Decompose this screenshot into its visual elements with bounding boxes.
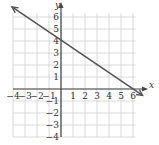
series-line <box>12 7 143 95</box>
y-tick-label: 5 <box>53 24 59 34</box>
y-tick-label: −4 <box>46 132 60 142</box>
x-tick-label: 3 <box>94 91 100 101</box>
x-tick-label: 5 <box>118 91 124 101</box>
x-tick-label: 6 <box>130 91 136 101</box>
x-tick-label: 4 <box>106 91 112 101</box>
y-tick-label: 1 <box>53 72 59 82</box>
y-tick-label: −1 <box>46 96 59 106</box>
y-tick-label: 6 <box>53 12 59 22</box>
x-tick-label: 2 <box>82 91 88 101</box>
y-tick-label: 3 <box>53 48 59 58</box>
x-axis-label: x <box>149 80 154 90</box>
y-axis-label: y <box>54 0 61 10</box>
y-tick-label: −3 <box>46 120 60 130</box>
y-tick-label: −2 <box>46 108 59 118</box>
line-graph: xy−4−3−2−1123456654321−1−2−3−4 <box>0 0 159 145</box>
x-axis-arrow <box>142 87 148 92</box>
x-tick-label: 1 <box>70 91 76 101</box>
y-tick-label: 2 <box>53 60 59 70</box>
